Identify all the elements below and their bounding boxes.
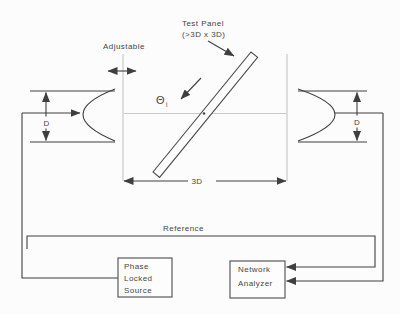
right-horn-antenna: D	[298, 89, 383, 142]
reference-path: Reference	[27, 224, 375, 267]
left-horn-antenna: D	[22, 89, 115, 142]
right-antenna-to-analyzer-cable	[287, 113, 384, 281]
panel-center-dot	[203, 112, 206, 115]
source-box-line2: Locked	[124, 274, 153, 283]
separation-dimension-label: 3D	[191, 177, 202, 186]
left-antenna-aperture-curve	[83, 89, 115, 141]
adjustable-annotation: Adjustable	[103, 42, 145, 71]
source-box-line1: Phase	[124, 262, 149, 271]
test-panel-label-line2: (>3D x 3D)	[182, 30, 225, 39]
left-aperture-dimension-label: D	[43, 119, 49, 128]
separation-dimension: 3D	[124, 177, 286, 186]
analyzer-box-line2: Analyzer	[238, 279, 273, 288]
diagram-canvas: D D Θ i Test Panel (>3D x 3D) Adjustable…	[0, 0, 400, 314]
test-panel-callout: Test Panel (>3D x 3D)	[182, 19, 234, 56]
test-panel	[153, 52, 258, 177]
test-panel-label-line1: Test Panel	[182, 19, 224, 28]
reference-label: Reference	[163, 224, 204, 233]
incidence-angle-annotation: Θ i	[156, 78, 201, 108]
adjustable-label: Adjustable	[103, 42, 145, 51]
incidence-direction-arrow	[181, 78, 201, 99]
network-analyzer: Network Analyzer	[230, 261, 285, 298]
right-aperture-dimension-label: D	[354, 118, 360, 127]
analyzer-box-line1: Network	[238, 265, 271, 274]
right-antenna-aperture-curve	[298, 89, 335, 141]
incidence-angle-symbol: Θ	[156, 94, 165, 106]
test-panel-callout-arrow	[208, 41, 234, 56]
phase-locked-source: Phase Locked Source	[118, 258, 172, 297]
source-to-left-antenna-cable	[22, 113, 118, 278]
reference-cable	[27, 236, 375, 267]
incidence-angle-subscript: i	[166, 101, 167, 108]
source-box-line3: Source	[124, 286, 152, 295]
free-space-measurement-diagram: D D Θ i Test Panel (>3D x 3D) Adjustable…	[0, 0, 400, 314]
